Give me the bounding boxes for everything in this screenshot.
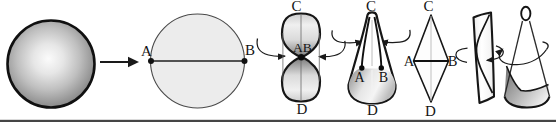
hourglass-label-c: C	[291, 0, 301, 14]
teardrop-label-c: C	[366, 0, 376, 14]
point-a-dot	[148, 58, 154, 64]
cone-rotation-arrow-icon	[499, 49, 546, 64]
strip-rotation-arrow-back-icon	[456, 48, 468, 62]
cone-rotation-arrow-tail-icon	[543, 42, 549, 50]
hourglass-label-d: D	[297, 101, 308, 117]
cone-apex-knob	[521, 7, 530, 21]
teardrop-label-d: D	[367, 102, 378, 118]
pinch-arrow-right-icon	[319, 41, 345, 57]
sphere	[8, 21, 95, 108]
teardrop-label-b: B	[379, 70, 388, 85]
figure-canvas: A B C AB D C A B D C A	[0, 0, 556, 122]
right-arrow-icon	[100, 57, 139, 67]
disk-label-a: A	[141, 43, 152, 59]
disk-with-diameter: A B	[141, 14, 255, 108]
diamond-label-c: C	[423, 0, 433, 14]
diamond-suspension: C A B D	[404, 0, 458, 119]
neck-arrow-left-icon	[332, 30, 362, 43]
hourglass: C AB D	[282, 0, 320, 117]
teardrop-cone: C A B D	[348, 0, 395, 118]
pinch-arrow-left-icon	[257, 39, 285, 57]
sphere-body	[8, 21, 95, 108]
rotated-cone	[499, 7, 549, 108]
hourglass-label-ab: AB	[293, 40, 312, 55]
disk-label-b: B	[245, 42, 255, 58]
teardrop-label-a: A	[354, 70, 365, 85]
diamond-label-a: A	[404, 53, 415, 69]
twisted-strip	[456, 13, 503, 104]
pinch-point-dot	[298, 54, 304, 60]
point-b-dot	[242, 58, 248, 64]
neck-arrow-right-icon	[381, 30, 410, 43]
page-edge-line	[0, 120, 556, 122]
diamond-label-d: D	[425, 103, 436, 119]
topology-figure: A B C AB D C A B D C A	[0, 0, 556, 122]
